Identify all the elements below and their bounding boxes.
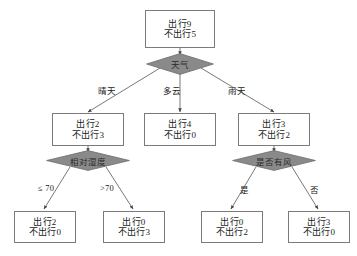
node-cloudy-leaf: 出行4 不出行0 — [144, 113, 216, 146]
node-humidity-low-leaf-line1: 出行2 — [33, 217, 56, 227]
edge-label-humidity-high: >70 — [100, 183, 114, 193]
node-sunny-line1: 出行2 — [76, 119, 99, 129]
decision-tree-diagram: 出行9 不出行5 天气 晴天 多云 雨天 出行2 不出行3 出行4 不出行0 出… — [0, 0, 357, 256]
node-windy-no-leaf-line2: 不出行0 — [303, 227, 335, 237]
node-windy-no-leaf-line1: 出行3 — [307, 217, 330, 227]
node-cloudy-leaf-line1: 出行4 — [168, 119, 191, 129]
node-rainy-line1: 出行3 — [262, 119, 285, 129]
node-windy-no-leaf: 出行3 不出行0 — [288, 211, 350, 243]
edge-label-sunny: 晴天 — [98, 84, 116, 96]
decision-humidity: 相对湿度 — [46, 150, 130, 171]
node-rainy: 出行3 不出行2 — [238, 113, 310, 146]
decision-windy-label: 是否有风 — [232, 150, 316, 171]
node-humidity-high-leaf-line1: 出行0 — [122, 217, 145, 227]
edge-label-cloudy: 多云 — [163, 84, 181, 96]
node-humidity-low-leaf-line2: 不出行0 — [29, 227, 61, 237]
node-windy-yes-leaf-line1: 出行0 — [220, 217, 243, 227]
node-rainy-line2: 不出行2 — [258, 130, 290, 140]
decision-weather: 天气 — [146, 53, 214, 75]
node-sunny: 出行2 不出行3 — [52, 113, 124, 146]
node-sunny-line2: 不出行3 — [72, 130, 104, 140]
node-cloudy-leaf-line2: 不出行0 — [164, 130, 196, 140]
node-humidity-high-leaf-line2: 不出行3 — [118, 227, 150, 237]
decision-humidity-label: 相对湿度 — [46, 150, 130, 171]
node-root-line1: 出行9 — [168, 19, 191, 29]
node-windy-yes-leaf-line2: 不出行2 — [216, 227, 248, 237]
node-windy-yes-leaf: 出行0 不出行2 — [201, 211, 263, 243]
node-humidity-low-leaf: 出行2 不出行0 — [14, 211, 76, 243]
decision-weather-label: 天气 — [146, 53, 214, 75]
edge-label-rainy: 雨天 — [228, 84, 246, 96]
node-root: 出行9 不出行5 — [145, 10, 215, 48]
node-humidity-high-leaf: 出行0 不出行3 — [103, 211, 165, 243]
edge-label-windy-no: 否 — [310, 183, 319, 195]
node-root-line2: 不出行5 — [164, 29, 196, 39]
decision-windy: 是否有风 — [232, 150, 316, 171]
edge-label-humidity-low: ≤ 70 — [38, 183, 54, 193]
edge-label-windy-yes: 是 — [240, 183, 249, 195]
